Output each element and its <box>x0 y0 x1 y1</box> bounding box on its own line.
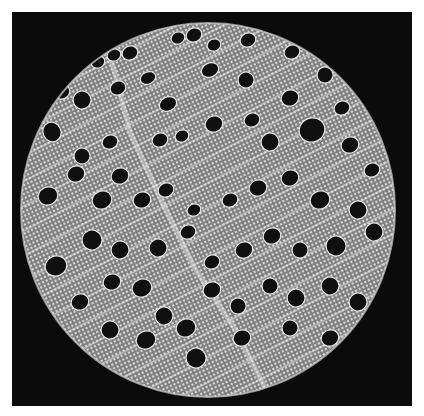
micrograph-image <box>12 12 412 406</box>
cross-section-disc <box>12 12 412 406</box>
